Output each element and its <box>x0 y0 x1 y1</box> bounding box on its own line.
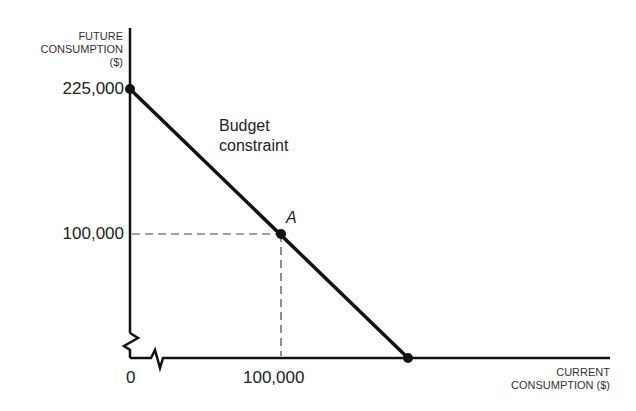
y-tick-225000: 225,000 <box>63 79 124 99</box>
y-axis-title-line: FUTURE <box>41 30 124 43</box>
point-x-intercept <box>403 353 413 363</box>
point-y-intercept <box>125 84 135 94</box>
budget-constraint-label-line: constraint <box>219 136 288 156</box>
x-axis-title-line: CURRENT <box>511 366 610 379</box>
x-axis-title-line: CONSUMPTION ($) <box>511 379 610 392</box>
point-a <box>276 229 286 239</box>
y-axis-break-icon <box>124 333 138 358</box>
y-tick-100000: 100,000 <box>63 224 124 244</box>
y-axis-title: FUTURE CONSUMPTION ($) <box>41 30 124 69</box>
x-axis-title: CURRENT CONSUMPTION ($) <box>511 366 610 392</box>
x-tick-0: 0 <box>126 368 135 388</box>
budget-constraint-label: Budget constraint <box>219 116 288 156</box>
budget-constraint-label-line: Budget <box>219 116 288 136</box>
x-tick-100000: 100,000 <box>243 368 304 388</box>
point-a-label: A <box>286 208 297 228</box>
y-axis-title-line: CONSUMPTION <box>41 43 124 56</box>
y-axis-title-line: ($) <box>41 56 124 69</box>
